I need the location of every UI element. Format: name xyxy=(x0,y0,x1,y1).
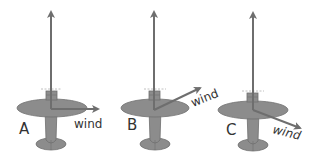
plane-label: C xyxy=(226,121,236,139)
plane-label: B xyxy=(127,116,137,134)
plane-label: A xyxy=(19,120,30,138)
wind-label: wind xyxy=(74,117,102,131)
airplane-c: C wind xyxy=(218,13,303,151)
airplane-a: A wind xyxy=(17,12,102,150)
airplane-b: B wind xyxy=(121,12,220,150)
wind-vector-diagram: A wind B wind C wind xyxy=(0,0,318,160)
wind-label: wind xyxy=(271,122,302,143)
wind-label: wind xyxy=(189,86,221,110)
